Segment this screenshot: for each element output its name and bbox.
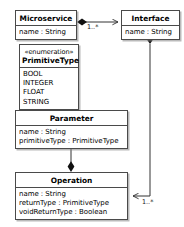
enum-literal-row: INTEGER xyxy=(23,79,76,88)
class-box-parameter[interactable]: Parameter name : String primitiveType : … xyxy=(15,110,128,149)
relationship-interface-operation xyxy=(133,34,153,196)
class-box-operation[interactable]: Operation name : String returnType : Pri… xyxy=(15,172,128,220)
class-name-parameter: Parameter xyxy=(16,111,127,126)
class-box-primitive-type[interactable]: «enumeration» PrimitiveType BOOL INTEGER… xyxy=(19,44,79,110)
class-attributes-operation: name : String returnType : PrimitiveType… xyxy=(16,188,127,219)
attribute-row: name : String xyxy=(19,28,74,37)
uml-class-diagram: Interface (horizontal) --> Operation (do… xyxy=(0,0,184,227)
multiplicity-microservice-interface: 1..* xyxy=(87,23,98,31)
class-name-operation: Operation xyxy=(16,173,127,188)
attribute-row: returnType : PrimitiveType xyxy=(19,199,125,208)
class-name-primitive-type: «enumeration» PrimitiveType xyxy=(20,45,78,68)
class-name-microservice: Microservice xyxy=(16,11,76,26)
enum-literal-row: STRING xyxy=(23,98,76,107)
class-name-interface: Interface xyxy=(122,11,179,26)
class-attributes-interface: name : String xyxy=(122,26,179,39)
attribute-row: voidReturnType : Boolean xyxy=(19,208,125,217)
attribute-row: name : String xyxy=(19,190,125,199)
multiplicity-interface-operation: 1..* xyxy=(142,198,153,206)
attribute-row: primitiveType : PrimitiveType xyxy=(19,137,125,146)
enum-literal-row: FLOAT xyxy=(23,88,76,97)
class-literals-primitive-type: BOOL INTEGER FLOAT STRING xyxy=(20,68,78,109)
attribute-row: name : String xyxy=(19,128,125,137)
enum-literal-row: BOOL xyxy=(23,70,76,79)
filled-diamond-operation xyxy=(68,161,75,172)
filled-diamond-microservice xyxy=(77,19,87,26)
class-title-primitive-type: PrimitiveType xyxy=(22,56,79,65)
class-attributes-microservice: name : String xyxy=(16,26,76,39)
class-attributes-parameter: name : String primitiveType : PrimitiveT… xyxy=(16,126,127,148)
class-box-microservice[interactable]: Microservice name : String xyxy=(15,10,77,40)
attribute-row: name : String xyxy=(125,28,177,37)
stereotype-label-enumeration: «enumeration» xyxy=(22,48,76,56)
class-box-interface[interactable]: Interface name : String xyxy=(121,10,180,40)
